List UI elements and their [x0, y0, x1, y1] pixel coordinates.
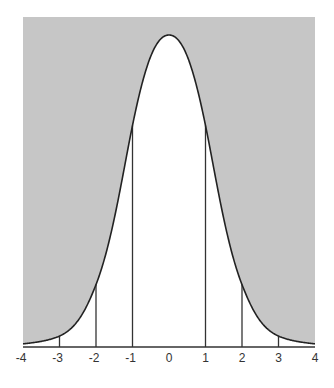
x-tick-labels: -4-3-2-101234 — [16, 351, 319, 365]
bell-curve-chart: -4-3-2-101234 — [0, 0, 334, 388]
x-tick-label: -4 — [16, 351, 27, 365]
x-tick-label: -2 — [89, 351, 100, 365]
x-tick-label: 0 — [166, 351, 173, 365]
shaded-region — [23, 17, 315, 347]
x-tick-label: -3 — [52, 351, 63, 365]
x-tick-label: 1 — [202, 351, 209, 365]
x-tick-label: 2 — [239, 351, 246, 365]
x-tick-label: 3 — [275, 351, 282, 365]
shaded-tail-area — [23, 17, 315, 347]
x-tick-label: 4 — [312, 351, 319, 365]
x-tick-label: -1 — [125, 351, 136, 365]
